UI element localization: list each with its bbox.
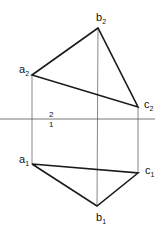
diagram-canvas: 2 1 a2b2c2a1b1c1 xyxy=(0,0,165,232)
projection-diagram: 2 1 a2b2c2a1b1c1 xyxy=(0,0,165,232)
link-line-b xyxy=(97,28,98,206)
vertex-label-a1: a1 xyxy=(19,153,29,167)
vertex-label-a2: a2 xyxy=(19,63,29,77)
vertex-label-b2: b2 xyxy=(96,11,106,25)
axis-label-lower: 1 xyxy=(49,120,54,129)
vertex-label-c1: c1 xyxy=(145,164,155,178)
vertex-label-c2: c2 xyxy=(144,98,154,112)
axis-label-upper: 2 xyxy=(49,110,54,119)
frontal-triangle xyxy=(32,28,138,107)
horizontal-triangle xyxy=(32,164,138,206)
vertex-label-b1: b1 xyxy=(96,211,106,225)
vertex-labels: a2b2c2a1b1c1 xyxy=(19,11,155,225)
